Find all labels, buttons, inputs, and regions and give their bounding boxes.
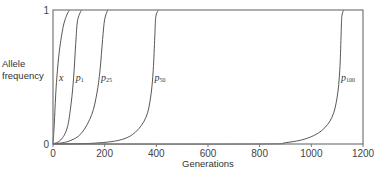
curve-label-x: x — [58, 72, 64, 83]
x-tick-label: 200 — [96, 148, 113, 159]
y-tick-label: 0 — [43, 139, 49, 150]
y-axis-label-line2: frequency — [2, 70, 44, 81]
curve-p100 — [53, 10, 344, 144]
y-tick-label: 1 — [43, 5, 49, 16]
x-tick-label: 1000 — [300, 148, 323, 159]
curves-group — [53, 10, 344, 144]
curve-label-p1: p1 — [75, 72, 84, 83]
allele-frequency-chart: 020040060080010001200 01 xp1p25p50p100 A… — [0, 0, 388, 181]
x-tick-label: 800 — [251, 148, 268, 159]
curve-label-p25: p25 — [100, 72, 112, 83]
x-tick-label: 1200 — [352, 148, 375, 159]
x-axis-label: Generations — [182, 158, 234, 169]
curve-label-p100: p100 — [340, 72, 355, 83]
y-axis-label-line1: Allele — [2, 58, 25, 69]
x-axis-ticks: 020040060080010001200 — [50, 144, 374, 159]
curve-label-p50: p50 — [154, 72, 166, 83]
y-axis-ticks: 01 — [43, 5, 49, 150]
x-tick-label: 0 — [50, 148, 56, 159]
x-tick-label: 400 — [148, 148, 165, 159]
curve-labels: xp1p25p50p100 — [58, 72, 355, 83]
